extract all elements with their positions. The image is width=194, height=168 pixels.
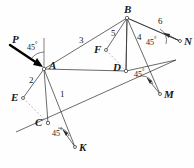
joint-nodes: [22, 16, 182, 148]
point-label-B: B: [124, 4, 131, 15]
force-P-arrowhead: [33, 58, 43, 67]
node-N: [179, 40, 182, 43]
member-label-3: 3: [79, 36, 84, 45]
point-label-M: M: [164, 89, 174, 100]
force-label-P: P: [12, 34, 19, 45]
member-label-1: 1: [60, 90, 65, 99]
member-4-B-D: [126, 18, 127, 71]
member-label-5: 5: [111, 29, 116, 38]
node-F: [105, 49, 108, 52]
node-K: [74, 146, 77, 149]
angle-label-at-M: 45°: [134, 68, 144, 79]
angle-label-at-A: 45°: [27, 41, 37, 52]
node-C: [46, 121, 49, 124]
node-A: [42, 67, 45, 70]
angle-arc-A: [31, 52, 44, 59]
member-label-6: 6: [158, 17, 163, 26]
point-label-F: F: [94, 44, 101, 55]
point-label-D: D: [113, 62, 121, 73]
point-label-C: C: [35, 117, 42, 128]
node-E: [22, 97, 25, 100]
angle-label-at-N: 45°: [146, 36, 156, 47]
member-label-2: 2: [29, 76, 34, 85]
member-B-to-M: [127, 18, 160, 94]
node-B: [125, 16, 128, 19]
point-label-N: N: [184, 36, 192, 47]
point-label-A: A: [49, 60, 56, 71]
member-2-A-E: [23, 69, 44, 98]
reaction-arrows: [58, 29, 180, 147]
node-M: [159, 93, 162, 96]
point-label-E: E: [11, 92, 18, 103]
figure-canvas: A B C D E F K M N 1 2 3 4 5 6 45° 45° 45…: [0, 0, 194, 168]
point-label-K: K: [79, 142, 86, 153]
angle-label-at-K: 45°: [52, 127, 62, 138]
node-D: [124, 69, 127, 72]
member-label-4: 4: [137, 33, 142, 42]
member-5-B-F: [106, 18, 127, 50]
truss-members: [23, 18, 180, 147]
angle-arc-N: [160, 29, 167, 44]
